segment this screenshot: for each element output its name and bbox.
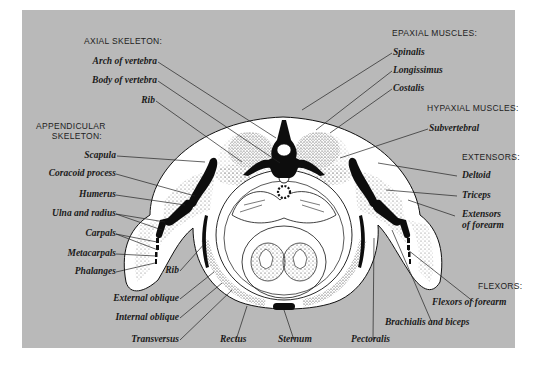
label-rib-axial: Rib bbox=[40, 95, 155, 106]
heading-extensors: EXTENSORS: bbox=[462, 152, 520, 163]
label-rib-lower: Rib bbox=[130, 265, 179, 276]
label-rectus: Rectus bbox=[220, 334, 246, 345]
label-longissimus: Longissimus bbox=[393, 65, 443, 76]
heading-axial-skeleton: AXIAL SKELETON: bbox=[84, 36, 162, 47]
label-humerus: Humerus bbox=[10, 189, 116, 200]
label-deltoid: Deltoid bbox=[462, 170, 491, 181]
label-scapula: Scapula bbox=[10, 150, 116, 161]
heading-appendicular-skeleton-line2: SKELETON: bbox=[36, 131, 102, 142]
heading-flexors: FLEXORS: bbox=[478, 281, 522, 292]
label-extensors: Extensors bbox=[462, 209, 501, 220]
label-coracoid-process: Coracoid process bbox=[10, 168, 116, 179]
label-costalis: Costalis bbox=[393, 83, 424, 94]
label-flexors-of-forearm: Flexors of forearm bbox=[432, 297, 506, 308]
label-carpals: Carpals bbox=[10, 228, 116, 239]
label-spinalis: Spinalis bbox=[393, 47, 425, 58]
label-external-oblique: External oblique bbox=[60, 293, 179, 304]
label-subvertebral: Subvertebral bbox=[429, 123, 479, 134]
label-internal-oblique: Internal oblique bbox=[60, 312, 179, 323]
label-triceps: Triceps bbox=[462, 190, 491, 201]
visceral-cavity bbox=[216, 170, 352, 300]
label-brachialis-and-biceps: Brachialis and biceps bbox=[385, 317, 469, 328]
label-body-of-vertebra: Body of vertebra bbox=[40, 75, 157, 86]
label-arch-of-vertebra: Arch of vertebra bbox=[40, 56, 157, 67]
label-pectoralis: Pectoralis bbox=[351, 334, 390, 345]
label-sternum: Sternum bbox=[278, 334, 312, 345]
label-ulna-and-radius: Ulna and radius bbox=[10, 208, 116, 219]
label-of-forearm: of forearm bbox=[462, 220, 504, 231]
label-transversus: Transversus bbox=[60, 334, 179, 345]
label-phalanges: Phalanges bbox=[10, 266, 116, 277]
label-metacarpals: Metacarpals bbox=[10, 248, 116, 259]
heading-hypaxial-muscles: HYPAXIAL MUSCLES: bbox=[427, 103, 519, 114]
heading-epaxial-muscles: EPAXIAL MUSCLES: bbox=[392, 28, 477, 39]
